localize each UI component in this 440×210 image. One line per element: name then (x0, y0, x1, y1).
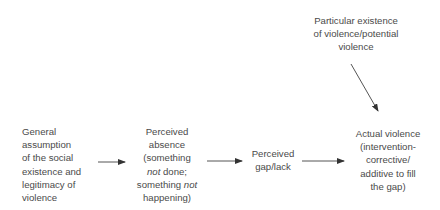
node-text-italic-line: not done; (131, 165, 203, 178)
node-text: of the social (22, 151, 81, 164)
arrow-particular-to-actual (351, 64, 378, 111)
node-text: legitimacy of (22, 178, 81, 191)
node-text: Actual violence (346, 127, 430, 140)
node-particular-existence: Particular existence of violence/potenti… (300, 14, 412, 54)
node-text: violence (300, 40, 412, 53)
node-text: (intervention- (346, 140, 430, 153)
node-text: assumption (22, 138, 81, 151)
node-perceived-gap: Perceived gap/lack (245, 147, 301, 173)
node-text: gap/lack (245, 160, 301, 173)
node-text: happening) (131, 191, 203, 204)
node-text: additive to fill (346, 167, 430, 180)
node-general-assumption: General assumption of the social existen… (22, 125, 81, 204)
node-text: existence and (22, 165, 81, 178)
node-text: General (22, 125, 81, 138)
node-text: (something (131, 151, 203, 164)
node-text: violence (22, 191, 81, 204)
node-text-italic-line: something not (131, 178, 203, 191)
italic-not: not (147, 166, 160, 177)
node-text: Perceived (131, 125, 203, 138)
italic-not: not (184, 179, 197, 190)
node-text: corrective/ (346, 153, 430, 166)
node-text: done; (160, 166, 187, 177)
node-perceived-absence: Perceived absence (something not done; s… (131, 125, 203, 204)
node-text: Perceived (245, 147, 301, 160)
node-text: something (137, 179, 184, 190)
node-text: the gap) (346, 180, 430, 193)
node-text: of violence/potential (300, 27, 412, 40)
node-actual-violence: Actual violence (intervention- correctiv… (346, 127, 430, 193)
node-text: absence (131, 138, 203, 151)
node-text: Particular existence (300, 14, 412, 27)
